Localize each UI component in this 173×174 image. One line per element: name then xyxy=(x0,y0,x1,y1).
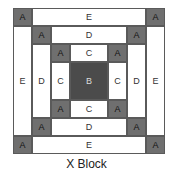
piece-c-right: C xyxy=(108,62,127,100)
piece-e-left: E xyxy=(13,26,32,136)
piece-d-right: D xyxy=(127,44,146,118)
piece-a5: A xyxy=(32,26,51,44)
piece-c-top: C xyxy=(70,44,108,62)
piece-a4: A xyxy=(146,136,165,154)
piece-a9: A xyxy=(51,44,70,62)
piece-a8: A xyxy=(127,118,146,136)
piece-a7: A xyxy=(32,118,51,136)
piece-b-center: B xyxy=(70,62,108,100)
diagram-caption: X Block xyxy=(0,157,173,171)
piece-c-bottom: C xyxy=(70,100,108,118)
piece-e-bottom: E xyxy=(32,136,146,154)
quilt-block-diagram: AEAEEAEAADADDADAACACBCACA xyxy=(13,8,165,154)
piece-d-bottom: D xyxy=(51,118,127,136)
piece-d-left: D xyxy=(32,44,51,118)
piece-a10: A xyxy=(108,44,127,62)
piece-a11: A xyxy=(51,100,70,118)
piece-e-top: E xyxy=(32,8,146,26)
piece-e-right: E xyxy=(146,26,165,136)
piece-a3: A xyxy=(13,136,32,154)
piece-a2: A xyxy=(146,8,165,26)
piece-c-left: C xyxy=(51,62,70,100)
piece-d-top: D xyxy=(51,26,127,44)
piece-a6: A xyxy=(127,26,146,44)
piece-a1: A xyxy=(13,8,32,26)
piece-a12: A xyxy=(108,100,127,118)
